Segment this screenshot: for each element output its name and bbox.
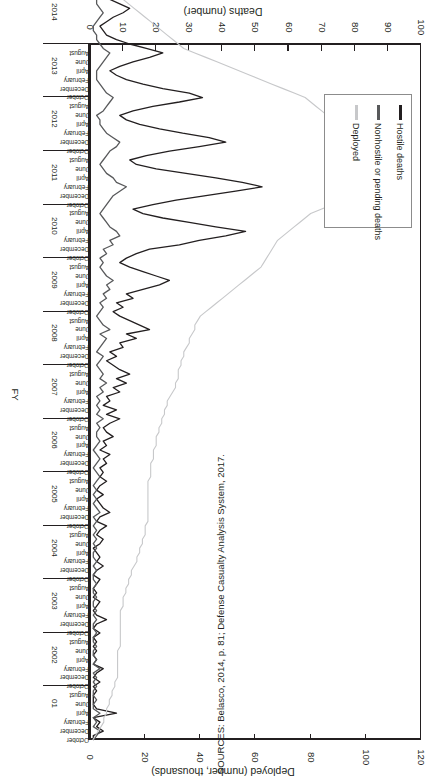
bottom-tick-label: 50 — [251, 10, 261, 44]
month-tick-label: April — [76, 656, 89, 662]
chart-legend: Hostile deathsNonhostile or pending deat… — [324, 94, 412, 228]
month-tick-label: August — [69, 157, 89, 163]
year-tick-label: 2003 — [50, 592, 59, 610]
year-tick-label: 2002 — [50, 646, 59, 664]
year-separator — [43, 311, 89, 312]
month-tick-label: June — [75, 540, 89, 546]
month-tick-label: June — [75, 219, 89, 225]
year-separator — [43, 43, 89, 44]
month-tick-label: April — [76, 228, 89, 234]
month-tick-label: February — [64, 76, 89, 82]
top-tick — [365, 734, 366, 740]
top-tick — [420, 734, 421, 740]
month-tick-label: December — [60, 567, 89, 573]
year-tick-label: 2008 — [50, 325, 59, 343]
top-tick-label: 120 — [416, 740, 426, 774]
month-tick-label: April — [76, 282, 89, 288]
year-separator — [43, 150, 89, 151]
fy-axis-labels: OctoberDecemberFebruaryAprilJuneAugustOc… — [27, 43, 89, 740]
year-tick-label: 2013 — [50, 57, 59, 75]
bottom-tick-label: 90 — [383, 10, 393, 44]
year-tick-label: 2007 — [50, 378, 59, 396]
fy-axis-title: FY — [10, 388, 21, 400]
month-tick-label: August — [69, 478, 89, 484]
month-tick-label: August — [69, 50, 89, 56]
bottom-tick — [354, 45, 355, 51]
bottom-tick — [122, 45, 123, 51]
bottom-tick-label: 80 — [350, 10, 360, 44]
month-tick-label: June — [75, 701, 89, 707]
month-tick-label: December — [60, 514, 89, 520]
month-tick-label: December — [60, 621, 89, 627]
month-tick-label: February — [64, 184, 89, 190]
month-tick-label: February — [64, 451, 89, 457]
year-tick-label: 2005 — [50, 485, 59, 503]
year-separator — [43, 364, 89, 365]
source-note-text: SOURCES: Belasco, 2014, p. 81; Defense C… — [215, 454, 226, 774]
month-tick-label: June — [75, 59, 89, 65]
legend-swatch — [377, 105, 380, 120]
year-separator — [43, 204, 89, 205]
month-tick-label: December — [60, 85, 89, 91]
top-tick — [144, 734, 145, 740]
top-tick-label: 60 — [251, 740, 261, 774]
legend-item: Deployed — [339, 103, 361, 219]
legend-swatch — [399, 105, 402, 120]
month-tick-label: August — [69, 585, 89, 591]
bottom-tick-label: 70 — [317, 10, 327, 44]
month-tick-label: April — [76, 389, 89, 395]
month-tick-label: February — [64, 130, 89, 136]
legend-label: Nonhostile or pending deaths — [373, 123, 383, 240]
top-tick-label: 100 — [361, 740, 371, 774]
year-tick-label: 2014 — [50, 3, 59, 21]
top-tick-label: 40 — [196, 740, 206, 774]
month-tick-label: June — [75, 648, 89, 654]
year-separator — [43, 632, 89, 633]
month-tick-label: June — [75, 380, 89, 386]
year-separator — [43, 525, 89, 526]
bottom-tick — [254, 45, 255, 51]
month-tick-label: April — [76, 68, 89, 74]
legend-item: Hostile deaths — [383, 103, 405, 219]
bottom-tick — [387, 45, 388, 51]
year-tick-label: 2011 — [50, 164, 59, 181]
bottom-tick-label: 0 — [85, 10, 95, 44]
top-tick-label: 80 — [306, 740, 316, 774]
month-tick-label: December — [60, 674, 89, 680]
month-tick-label: February — [64, 344, 89, 350]
month-tick-label: August — [69, 264, 89, 270]
month-tick-label: August — [69, 103, 89, 109]
month-tick-label: April — [76, 175, 89, 181]
month-tick-label: February — [64, 719, 89, 725]
month-tick-label: December — [60, 300, 89, 306]
month-tick-label: August — [69, 371, 89, 377]
bottom-tick-label: 100 — [416, 10, 426, 44]
bottom-tick — [321, 45, 322, 51]
month-tick-label: June — [75, 112, 89, 118]
year-tick-label: 2004 — [50, 539, 59, 557]
month-tick-label: June — [75, 487, 89, 493]
month-tick-label: June — [75, 326, 89, 332]
month-tick-label: April — [76, 442, 89, 448]
legend-label: Deployed — [351, 123, 361, 161]
month-tick-label: August — [69, 692, 89, 698]
year-tick-label: 2010 — [50, 217, 59, 235]
year-separator — [43, 686, 89, 687]
month-tick-label: August — [69, 424, 89, 430]
month-tick-label: February — [64, 665, 89, 671]
year-tick-label: 2006 — [50, 432, 59, 450]
bottom-tick-label: 10 — [118, 10, 128, 44]
month-tick-label: April — [76, 496, 89, 502]
year-tick-label: 01 — [50, 699, 59, 708]
legend-item: Nonhostile or pending deaths — [361, 103, 383, 219]
month-tick-label: June — [75, 594, 89, 600]
month-tick-label: December — [60, 192, 89, 198]
top-tick-label: 20 — [140, 740, 150, 774]
bottom-tick — [155, 45, 156, 51]
year-separator — [43, 579, 89, 580]
month-tick-label: February — [64, 558, 89, 564]
bottom-tick — [420, 45, 421, 51]
month-tick-label: December — [60, 728, 89, 734]
month-tick-label: October — [67, 737, 89, 743]
month-tick-label: December — [60, 246, 89, 252]
